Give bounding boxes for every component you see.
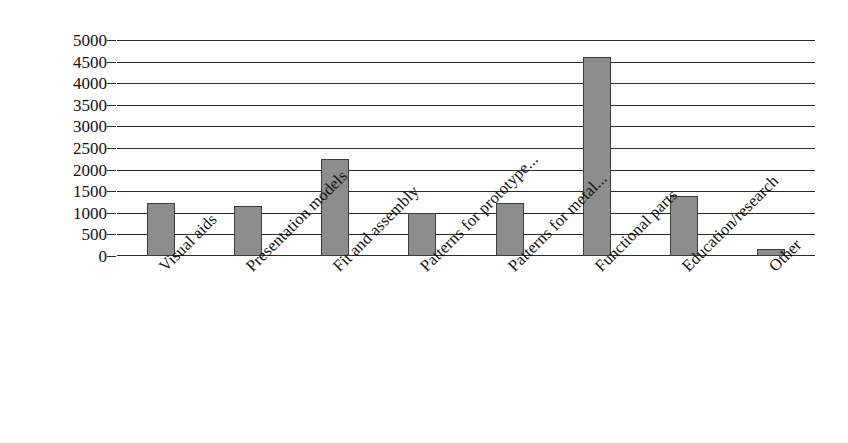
gridline bbox=[117, 191, 815, 192]
y-axis-tick-label: 4500 bbox=[49, 53, 107, 70]
gridline bbox=[117, 105, 815, 106]
y-axis-tick-mark bbox=[107, 62, 116, 63]
y-axis-tick-label: 3000 bbox=[49, 118, 107, 135]
y-axis-tick-mark bbox=[107, 40, 116, 41]
gridline bbox=[117, 170, 815, 171]
y-axis-tick-mark bbox=[107, 83, 116, 84]
gridline bbox=[117, 83, 815, 84]
y-axis-tick-mark bbox=[107, 256, 116, 257]
y-axis-tick-label: 2000 bbox=[49, 161, 107, 178]
gridline bbox=[117, 148, 815, 149]
y-axis-tick-label: 1500 bbox=[49, 183, 107, 200]
y-axis-tick-mark bbox=[107, 170, 116, 171]
y-axis-tick-mark bbox=[107, 213, 116, 214]
y-axis-tick-label: 0 bbox=[49, 248, 107, 265]
y-axis-tick-label: 3500 bbox=[49, 96, 107, 113]
y-axis-tick-mark bbox=[107, 234, 116, 235]
bar bbox=[583, 57, 611, 256]
gridline bbox=[117, 62, 815, 63]
y-axis-tick-label: 4000 bbox=[49, 75, 107, 92]
y-axis-tick-mark bbox=[107, 191, 116, 192]
chart-figure: Total number of prints 50004500400035003… bbox=[0, 0, 848, 443]
y-axis-tick-mark bbox=[107, 105, 116, 106]
y-axis-tick-label: 5000 bbox=[49, 32, 107, 49]
y-axis-tick-mark bbox=[107, 148, 116, 149]
y-axis-tick-mark bbox=[107, 126, 116, 127]
gridline bbox=[117, 126, 815, 127]
gridline bbox=[117, 40, 815, 41]
y-axis-tick-label: 2500 bbox=[49, 140, 107, 157]
y-axis-tick-label: 1000 bbox=[49, 204, 107, 221]
y-axis-tick-label: 500 bbox=[49, 226, 107, 243]
